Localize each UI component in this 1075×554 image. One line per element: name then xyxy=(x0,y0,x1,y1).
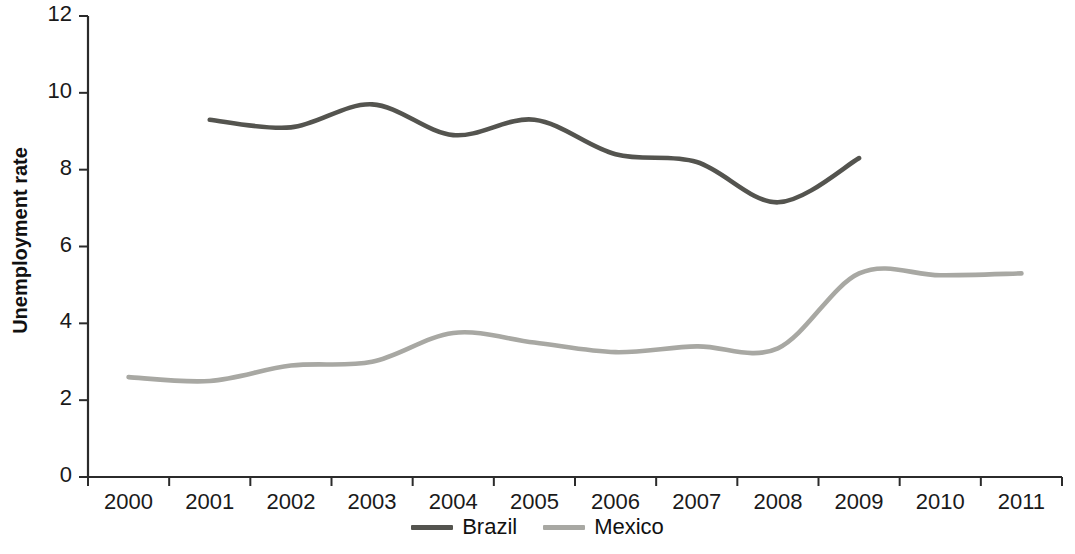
legend-label: Mexico xyxy=(594,514,664,540)
y-axis-tick-label: 0 xyxy=(36,462,72,488)
x-axis-tick-label: 2007 xyxy=(652,489,742,515)
x-axis-tick-label: 2008 xyxy=(733,489,823,515)
legend-item-mexico[interactable]: Mexico xyxy=(543,514,664,540)
series-line-mexico xyxy=(129,268,1022,381)
legend-item-brazil[interactable]: Brazil xyxy=(411,514,517,540)
axes xyxy=(79,16,1062,486)
legend-swatch-icon xyxy=(411,525,453,530)
y-axis-tick-label: 2 xyxy=(36,385,72,411)
x-axis-tick-label: 2006 xyxy=(571,489,661,515)
y-axis-tick-label: 8 xyxy=(36,155,72,181)
y-axis-tick-label: 4 xyxy=(36,308,72,334)
x-axis-tick-label: 2001 xyxy=(165,489,255,515)
x-axis-tick-label: 2011 xyxy=(976,489,1066,515)
x-axis-tick-label: 2010 xyxy=(895,489,985,515)
legend-label: Brazil xyxy=(462,514,517,540)
chart-legend: BrazilMexico xyxy=(0,514,1075,540)
x-axis-tick-label: 2005 xyxy=(489,489,579,515)
x-axis-tick-label: 2000 xyxy=(84,489,174,515)
x-axis-tick-label: 2004 xyxy=(408,489,498,515)
x-axis-tick-label: 2003 xyxy=(327,489,417,515)
plot-area xyxy=(0,0,1075,554)
unemployment-rate-line-chart: Unemployment rate 024681012 200020012002… xyxy=(0,0,1075,554)
y-axis-tick-label: 12 xyxy=(36,1,72,27)
legend-swatch-icon xyxy=(543,525,585,530)
x-axis-tick-label: 2009 xyxy=(814,489,904,515)
y-axis-tick-label: 10 xyxy=(36,78,72,104)
series-line-brazil xyxy=(210,104,859,202)
data-series xyxy=(129,104,1022,381)
x-axis-tick-label: 2002 xyxy=(246,489,336,515)
y-axis-tick-label: 6 xyxy=(36,232,72,258)
